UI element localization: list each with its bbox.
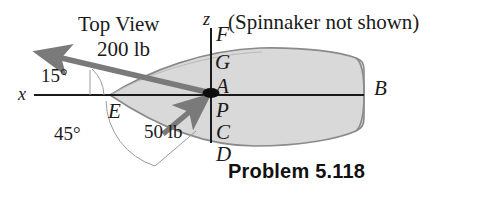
- point-F-label: F: [216, 24, 229, 45]
- force-50lb-label: 50 lb: [144, 122, 183, 141]
- point-A-label: A: [216, 76, 229, 97]
- problem-figure: Top View (Spinnaker not shown) 200 lb 15…: [0, 0, 477, 197]
- figure-caption: Problem 5.118: [228, 161, 365, 181]
- force-200lb-label: 200 lb: [97, 39, 150, 60]
- point-B-label: B: [374, 78, 387, 99]
- angle-45-label: 45°: [54, 124, 81, 143]
- angle-15-arc: [92, 69, 104, 95]
- spinnaker-note-label: (Spinnaker not shown): [228, 12, 419, 33]
- point-C-label: C: [216, 122, 230, 143]
- angle-15-label: 15°: [41, 66, 68, 85]
- point-E-label: E: [108, 101, 121, 122]
- point-G-label: G: [215, 52, 230, 73]
- x-axis-label: x: [18, 85, 26, 103]
- top-view-label: Top View: [78, 14, 159, 35]
- z-axis-label: z: [203, 10, 210, 28]
- point-P-label: P: [216, 100, 229, 121]
